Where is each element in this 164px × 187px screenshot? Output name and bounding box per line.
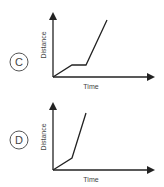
answer-options-figure: C Distance Time D Distance Time xyxy=(0,0,164,187)
chart-c-ylabel: Distance xyxy=(40,31,47,58)
chart-d-xlabel: Time xyxy=(83,176,98,183)
option-d-letter: D xyxy=(15,134,23,146)
option-c[interactable]: C Distance Time xyxy=(10,14,153,90)
chart-c-line xyxy=(53,20,107,77)
chart-d-line xyxy=(53,113,86,170)
chart-d-ylabel: Distance xyxy=(40,123,47,150)
option-c-letter: C xyxy=(15,56,23,68)
chart-c-xlabel: Time xyxy=(83,83,98,90)
option-d[interactable]: D Distance Time xyxy=(10,104,153,183)
